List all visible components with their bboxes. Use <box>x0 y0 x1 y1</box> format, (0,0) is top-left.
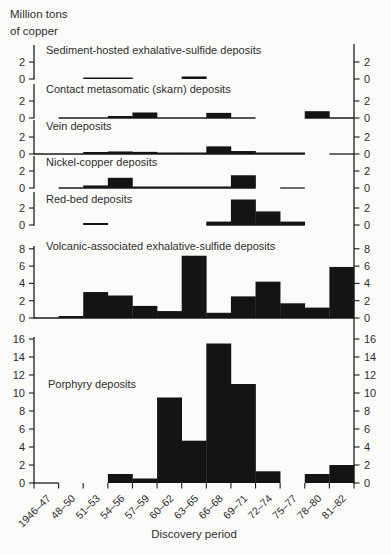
y-tick-label-right: 2 <box>364 56 370 68</box>
panel-title: Red-bed deposits <box>46 193 133 205</box>
y-tick-label-right: 0 <box>364 148 370 160</box>
y-tick-label-left: 8 <box>19 243 25 255</box>
y-axis-title-line1: Million tons <box>10 6 68 23</box>
x-tick-label: 75–77 <box>270 492 299 521</box>
y-tick-label-right: 0 <box>364 477 370 489</box>
bar <box>132 187 157 189</box>
bar <box>280 222 305 225</box>
y-tick-label-left: 2 <box>19 459 25 471</box>
y-tick-label-left: 0 <box>19 312 25 324</box>
x-tick-label: 1946–47 <box>15 492 53 530</box>
y-tick-label-left: 4 <box>19 277 25 289</box>
bar <box>83 292 108 318</box>
bar <box>231 384 256 483</box>
bar <box>59 316 84 318</box>
y-tick-label-right: 2 <box>364 131 370 143</box>
bar <box>132 112 157 118</box>
y-tick-label-left: 14 <box>13 351 25 363</box>
bar <box>132 152 157 154</box>
y-tick-label-right: 12 <box>364 369 376 381</box>
y-tick-label-right: 8 <box>364 243 370 255</box>
bar <box>132 479 157 484</box>
y-axis-title-line2: of copper <box>10 23 68 40</box>
bar <box>83 78 108 80</box>
y-tick-label-right: 0 <box>364 219 370 231</box>
y-tick-label-left: 0 <box>19 182 25 194</box>
bar <box>206 113 231 118</box>
x-tick-label: 78–80 <box>294 492 323 521</box>
bar <box>305 474 330 483</box>
x-tick-label: 57–59 <box>122 492 151 521</box>
x-axis-label: Discovery period <box>151 528 237 540</box>
bar <box>256 471 281 483</box>
y-tick-label-left: 4 <box>19 441 25 453</box>
bar <box>280 153 305 155</box>
y-tick-label-right: 2 <box>364 202 370 214</box>
y-tick-label-right: 0 <box>364 312 370 324</box>
y-tick-label-right: 8 <box>364 405 370 417</box>
bar <box>108 296 133 318</box>
bar <box>83 152 108 154</box>
bar <box>157 398 182 484</box>
bar <box>231 296 256 318</box>
bar <box>206 344 231 484</box>
y-tick-label-right: 14 <box>364 351 376 363</box>
y-tick-label-left: 0 <box>19 477 25 489</box>
y-tick-label-left: 2 <box>19 131 25 143</box>
bar <box>329 267 354 318</box>
x-tick-label: 81–82 <box>319 492 348 521</box>
bar <box>83 185 108 188</box>
bar <box>305 111 330 118</box>
bar <box>157 153 182 155</box>
y-tick-label-left: 2 <box>19 56 25 68</box>
bar <box>256 153 281 155</box>
y-tick-label-left: 6 <box>19 423 25 435</box>
bar <box>182 256 207 318</box>
y-tick-label-right: 4 <box>364 277 370 289</box>
y-tick-label-left: 0 <box>19 112 25 124</box>
chart-canvas: 0202Sediment-hosted exhalative-sulfide d… <box>0 0 391 555</box>
y-axis-title: Million tons of copper <box>10 6 68 39</box>
y-tick-label-left: 2 <box>19 202 25 214</box>
y-tick-label-right: 2 <box>364 165 370 177</box>
y-tick-label-right: 6 <box>364 260 370 272</box>
bar <box>231 151 256 154</box>
x-tick-label: 66–68 <box>196 492 225 521</box>
bar <box>108 178 133 188</box>
bar <box>206 146 231 154</box>
panel-title: Nickel-copper deposits <box>46 156 158 168</box>
x-tick-label: 63–65 <box>171 492 200 521</box>
bar <box>206 187 231 189</box>
y-tick-label-left: 10 <box>13 387 25 399</box>
bar <box>108 116 133 118</box>
bar <box>83 223 108 225</box>
bar <box>132 306 157 318</box>
panel-title: Sediment-hosted exhalative-sulfide depos… <box>46 44 262 56</box>
bar <box>256 211 281 225</box>
x-tick-label: 51–53 <box>73 492 102 521</box>
bar <box>182 187 207 189</box>
y-tick-label-left: 16 <box>13 333 25 345</box>
x-tick-label: 54–56 <box>97 492 126 521</box>
y-tick-label-left: 0 <box>19 73 25 85</box>
bar <box>182 441 207 483</box>
bar <box>108 474 133 483</box>
bar <box>231 200 256 226</box>
y-tick-label-right: 2 <box>364 459 370 471</box>
y-tick-label-right: 0 <box>364 73 370 85</box>
panel-title: Volcanic-associated exhalative-sulfide d… <box>46 240 276 252</box>
y-tick-label-left: 6 <box>19 260 25 272</box>
bar <box>305 308 330 318</box>
x-tick-label: 48–50 <box>48 492 77 521</box>
bar <box>157 187 182 189</box>
bar <box>329 465 354 483</box>
y-tick-label-left: 0 <box>19 148 25 160</box>
x-tick-label: 69–71 <box>221 492 250 521</box>
y-tick-label-right: 0 <box>364 112 370 124</box>
bar <box>157 311 182 318</box>
y-tick-label-left: 12 <box>13 369 25 381</box>
bar <box>182 153 207 155</box>
y-tick-label-right: 16 <box>364 333 376 345</box>
bar <box>108 78 133 80</box>
y-tick-label-left: 0 <box>19 219 25 231</box>
